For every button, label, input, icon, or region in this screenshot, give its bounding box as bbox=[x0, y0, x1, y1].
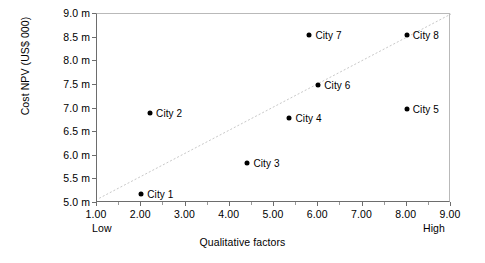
y-tick-label: 9.0 m bbox=[46, 7, 90, 19]
x-axis-title: Qualitative factors bbox=[0, 236, 485, 248]
y-tick-label: 7.5 m bbox=[46, 78, 90, 90]
y-tick-label: 7.0 m bbox=[46, 102, 90, 114]
data-point[interactable] bbox=[404, 106, 409, 111]
x-tick-mark bbox=[229, 202, 230, 206]
y-tick-label: 6.5 m bbox=[46, 125, 90, 137]
x-tick-mark-minor bbox=[295, 202, 296, 205]
data-point[interactable] bbox=[287, 115, 292, 120]
data-point[interactable] bbox=[316, 82, 321, 87]
data-point-label: City 3 bbox=[253, 157, 279, 168]
data-point[interactable] bbox=[245, 160, 250, 165]
y-tick-label: 8.5 m bbox=[46, 31, 90, 43]
x-tick-mark-minor bbox=[339, 202, 340, 205]
x-tick-mark-minor bbox=[384, 202, 385, 205]
x-tick-mark bbox=[96, 202, 97, 206]
x-tick-mark-minor bbox=[207, 202, 208, 205]
x-tick-mark-minor bbox=[162, 202, 163, 205]
x-tick-mark-minor bbox=[118, 202, 119, 205]
x-axis-low-label: Low bbox=[92, 222, 112, 234]
y-tick-label: 5.0 m bbox=[46, 196, 90, 208]
x-tick-mark bbox=[140, 202, 141, 206]
plot-area: City 1City 2City 3City 4City 5City 6City… bbox=[96, 13, 450, 202]
data-point[interactable] bbox=[307, 33, 312, 38]
data-point-label: City 5 bbox=[413, 103, 439, 114]
data-point-label: City 8 bbox=[413, 30, 439, 41]
x-tick-mark bbox=[450, 202, 451, 206]
data-point-label: City 7 bbox=[315, 30, 341, 41]
x-tick-label: 5.00 bbox=[263, 208, 284, 220]
y-axis-title: Cost NPV (US$ 000) bbox=[19, 1, 31, 131]
x-tick-mark bbox=[185, 202, 186, 206]
x-tick-label: 2.00 bbox=[130, 208, 151, 220]
y-tick-label: 8.0 m bbox=[46, 54, 90, 66]
x-tick-mark-minor bbox=[251, 202, 252, 205]
y-tick-label: 5.5 m bbox=[46, 172, 90, 184]
x-tick-label: 6.00 bbox=[307, 208, 328, 220]
trendline-svg bbox=[97, 14, 449, 201]
data-point-label: City 1 bbox=[147, 188, 173, 199]
x-tick-label: 8.00 bbox=[395, 208, 416, 220]
trendline bbox=[99, 14, 451, 198]
x-tick-label: 4.00 bbox=[218, 208, 239, 220]
x-tick-mark bbox=[406, 202, 407, 206]
data-point[interactable] bbox=[404, 33, 409, 38]
x-tick-label: 7.00 bbox=[351, 208, 372, 220]
x-tick-label: 9.00 bbox=[440, 208, 461, 220]
x-tick-label: 3.00 bbox=[174, 208, 195, 220]
data-point[interactable] bbox=[148, 111, 153, 116]
data-point[interactable] bbox=[139, 191, 144, 196]
x-tick-label: 1.00 bbox=[86, 208, 107, 220]
data-point-label: City 4 bbox=[295, 112, 321, 123]
x-tick-mark bbox=[273, 202, 274, 206]
x-tick-mark bbox=[362, 202, 363, 206]
x-tick-mark bbox=[317, 202, 318, 206]
x-tick-mark-minor bbox=[428, 202, 429, 205]
x-axis-high-label: High bbox=[423, 222, 445, 234]
data-point-label: City 2 bbox=[156, 108, 182, 119]
data-point-label: City 6 bbox=[324, 79, 350, 90]
y-tick-label: 6.0 m bbox=[46, 149, 90, 161]
scatter-chart: Cost NPV (US$ 000) 5.0 m5.5 m6.0 m6.5 m7… bbox=[0, 0, 485, 263]
